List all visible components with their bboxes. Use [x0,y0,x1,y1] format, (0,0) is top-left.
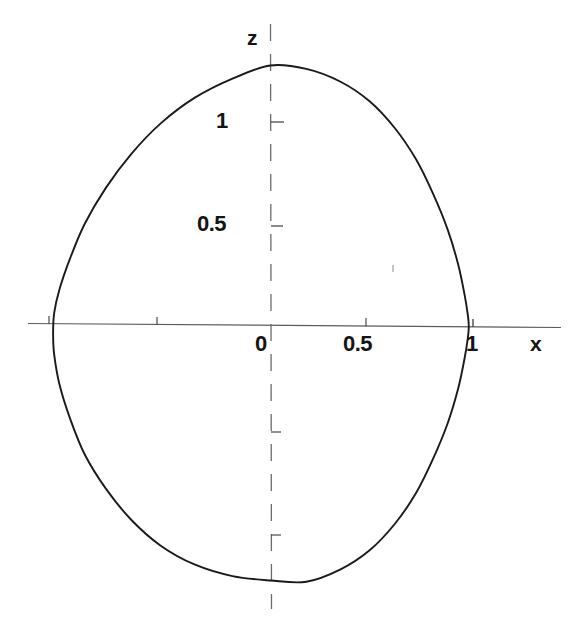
x-tick-label-0.5: 0.5 [343,333,372,355]
plot-area [0,0,578,625]
figure-canvas: z x 1 0.5 0 0.5 1 [0,0,578,625]
x-axis-title: x [530,333,542,354]
x-axis-group [28,265,561,328]
z-axis-title: z [247,27,258,48]
x-axis-line [28,324,561,328]
z-axis-group [271,24,285,609]
z-axis-line [271,24,272,609]
x-tick-label-0: 0 [255,333,267,355]
z-tick-label-0.5: 0.5 [197,213,226,235]
z-tick-label-1: 1 [216,110,228,132]
x-tick-label-1: 1 [466,333,478,355]
